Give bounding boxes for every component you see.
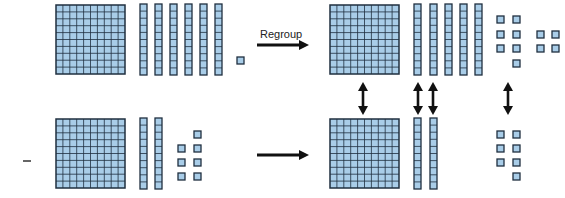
ten-rod-top-right xyxy=(475,4,482,75)
ten-rod-top-left xyxy=(170,4,177,75)
ten-rod-top-left xyxy=(155,4,162,75)
ten-rod-top-right xyxy=(430,4,437,75)
unit-cube-bottom-right xyxy=(497,159,504,166)
unit-cube-bottom-left xyxy=(194,131,201,138)
ten-rod-top-right xyxy=(414,4,421,75)
ten-rod-bottom-left xyxy=(140,118,147,189)
unit-cube-bottom-right xyxy=(513,159,520,166)
hundred-flat-top-left xyxy=(56,5,125,74)
hundred-flat-top-right xyxy=(330,5,399,74)
unit-cube-bottom-left xyxy=(194,145,201,152)
hundred-flat-bottom-left xyxy=(56,119,125,188)
ten-rod-bottom-right xyxy=(414,118,421,189)
unit-cube-top-left xyxy=(237,57,244,64)
hundred-flat-bottom-right xyxy=(330,119,399,188)
unit-cube-top-right xyxy=(497,31,504,38)
ten-rod-top-left xyxy=(185,4,192,75)
unit-cube-top-right xyxy=(513,60,520,67)
unit-cube-bottom-left xyxy=(178,145,185,152)
unit-cube-top-right xyxy=(513,31,520,38)
ten-rod-top-right xyxy=(445,4,452,75)
ten-rod-top-right xyxy=(460,4,467,75)
double-arrow-hundreds-icon xyxy=(358,82,368,115)
unit-cube-top-right xyxy=(552,31,559,38)
unit-cube-top-right xyxy=(552,45,559,52)
unit-cube-bottom-left xyxy=(194,159,201,166)
unit-cube-top-right xyxy=(497,16,504,23)
unit-cube-bottom-right xyxy=(513,145,520,152)
ten-rod-bottom-left xyxy=(155,118,162,189)
unit-cube-top-right xyxy=(513,16,520,23)
unit-cube-bottom-right xyxy=(497,145,504,152)
ten-rod-top-left xyxy=(140,4,147,75)
double-arrow-ones-icon xyxy=(503,82,513,115)
unit-cube-bottom-left xyxy=(178,159,185,166)
unit-cube-bottom-right xyxy=(497,131,504,138)
bottom-right-arrow-icon xyxy=(257,150,309,160)
double-arrow-tens-2-icon xyxy=(428,82,438,115)
unit-cube-top-right xyxy=(537,45,544,52)
unit-cube-bottom-right xyxy=(513,131,520,138)
unit-cube-top-right xyxy=(537,31,544,38)
regroup-label: Regroup xyxy=(260,28,302,40)
unit-cube-bottom-left xyxy=(178,173,185,180)
regroup-arrow-icon xyxy=(257,40,309,50)
minus-sign xyxy=(23,160,31,162)
unit-cube-bottom-left xyxy=(194,173,201,180)
unit-cube-top-right xyxy=(497,45,504,52)
unit-cube-bottom-right xyxy=(513,173,520,180)
unit-cube-top-right xyxy=(513,45,520,52)
ten-rod-bottom-right xyxy=(430,118,437,189)
ten-rod-top-left xyxy=(215,4,222,75)
ten-rod-top-left xyxy=(200,4,207,75)
double-arrow-tens-1-icon xyxy=(413,82,423,115)
